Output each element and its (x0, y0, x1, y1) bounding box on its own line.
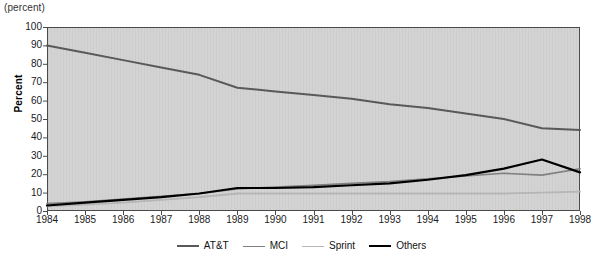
x-tick-label: 1989 (217, 214, 257, 225)
line-chart-figure: (percent) Percent 1009080706050403020100… (0, 0, 603, 256)
chart-legend: AT&TMCISprintOthers (0, 238, 603, 254)
legend-label: MCI (270, 241, 288, 251)
x-tick-label: 1994 (408, 214, 448, 225)
x-tick-label: 1984 (27, 214, 67, 225)
legend-swatch (369, 245, 391, 247)
legend-label: Sprint (329, 241, 355, 251)
x-tick-label: 1986 (103, 214, 143, 225)
legend-item-others[interactable]: Others (369, 241, 426, 251)
legend-swatch (243, 246, 265, 247)
legend-swatch (302, 246, 324, 247)
x-tick-label: 1988 (179, 214, 219, 225)
x-tick-label: 1993 (370, 214, 410, 225)
x-tick-label: 1990 (255, 214, 295, 225)
legend-label: Others (396, 241, 426, 251)
x-tick-label: 1995 (446, 214, 486, 225)
x-tick-label: 1998 (560, 214, 600, 225)
legend-item-at-t[interactable]: AT&T (177, 241, 229, 251)
x-tick-label: 1992 (332, 214, 372, 225)
legend-item-mci[interactable]: MCI (243, 241, 288, 251)
x-tick-label: 1996 (484, 214, 524, 225)
x-tick-label: 1991 (294, 214, 334, 225)
x-tick-label: 1987 (141, 214, 181, 225)
x-tick-label: 1997 (522, 214, 562, 225)
legend-label: AT&T (204, 241, 229, 251)
legend-item-sprint[interactable]: Sprint (302, 241, 355, 251)
legend-swatch (177, 245, 199, 247)
x-tick-label: 1985 (65, 214, 105, 225)
x-axis-tick-labels: 1984198519861987198819891990199119921993… (0, 214, 603, 230)
